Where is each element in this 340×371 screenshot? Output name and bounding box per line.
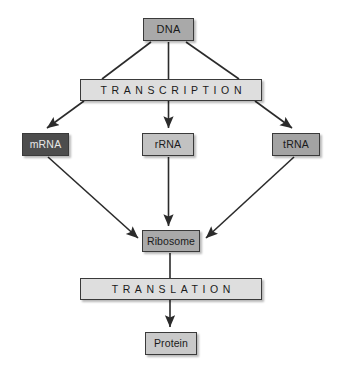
node-translation[interactable]: TRANSLATION — [80, 278, 262, 300]
node-mrna[interactable]: mRNA — [22, 133, 69, 156]
node-protein[interactable]: Protein — [145, 332, 197, 355]
edge-transcription-to-mrna — [47, 101, 84, 128]
node-transcription[interactable]: TRANSCRIPTION — [80, 79, 262, 101]
edge-dna-to-transcription-left — [102, 42, 151, 79]
node-transcription-label: TRANSCRIPTION — [96, 85, 246, 96]
node-dna[interactable]: DNA — [143, 18, 194, 41]
node-dna-label: DNA — [156, 24, 180, 35]
edge-transcription-to-trna — [255, 101, 292, 128]
node-rrna[interactable]: rRNA — [142, 133, 194, 156]
edge-mrna-to-ribosome — [48, 157, 138, 238]
central-dogma-diagram: DNA TRANSCRIPTION mRNA rRNA tRNA Ribosom… — [0, 0, 340, 371]
node-translation-label: TRANSLATION — [107, 284, 235, 295]
node-ribosome-label: Ribosome — [147, 236, 195, 247]
node-ribosome[interactable]: Ribosome — [142, 230, 200, 252]
node-rrna-label: rRNA — [155, 139, 181, 150]
node-trna-label: tRNA — [283, 139, 309, 150]
node-trna[interactable]: tRNA — [272, 133, 320, 156]
node-protein-label: Protein — [154, 338, 188, 349]
edge-dna-to-transcription-right — [186, 42, 239, 79]
edge-layer — [0, 0, 340, 371]
node-mrna-label: mRNA — [30, 139, 62, 150]
edge-trna-to-ribosome — [206, 157, 294, 238]
